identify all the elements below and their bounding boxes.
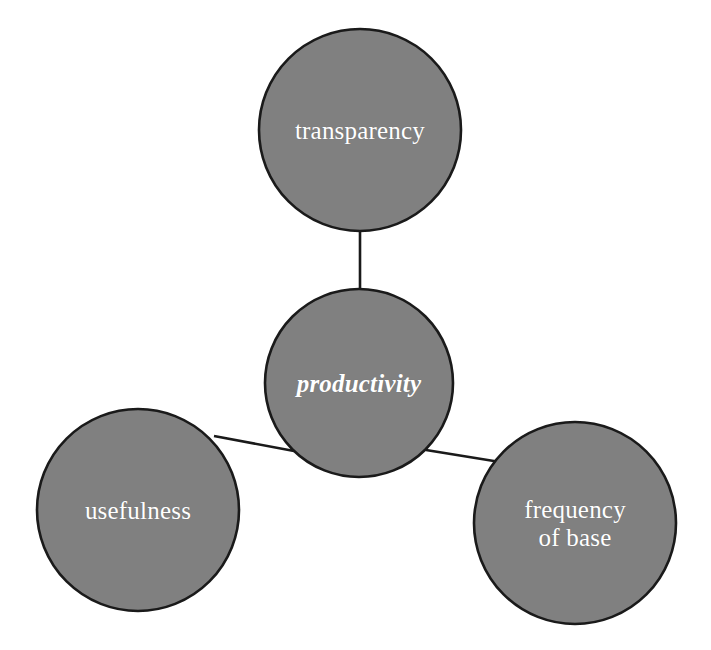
node-circle-frequency-of-base[interactable]	[474, 422, 676, 624]
node-circle-transparency[interactable]	[259, 29, 461, 231]
concept-map-graphic	[0, 0, 711, 650]
edge-productivity-frequency	[426, 450, 500, 462]
node-circle-productivity[interactable]	[265, 289, 453, 477]
node-group	[37, 29, 676, 624]
node-circle-usefulness[interactable]	[37, 409, 239, 611]
diagram-canvas: transparency productivity usefulness fre…	[0, 0, 711, 650]
